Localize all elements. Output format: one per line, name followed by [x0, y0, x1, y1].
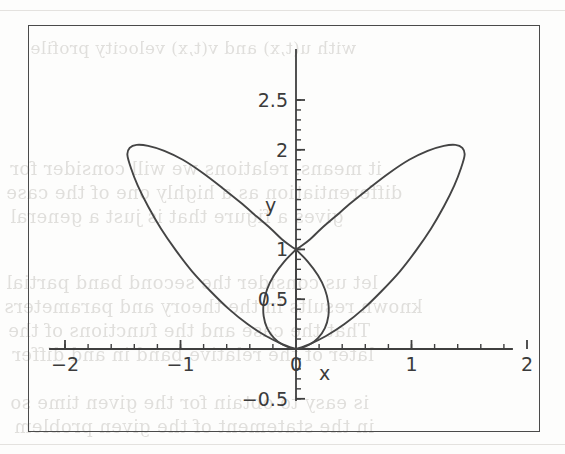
- y-tick-label: 2.5: [258, 91, 288, 110]
- y-tick-label: −0.5: [242, 389, 288, 408]
- x-axis-label: x: [319, 364, 330, 383]
- x-tick-label: 2: [521, 355, 533, 374]
- x-tick-label: −2: [51, 355, 79, 374]
- y-tick-label: 1: [276, 240, 288, 259]
- x-tick-label: 0: [290, 355, 302, 374]
- y-tick-label: 0.5: [258, 290, 288, 309]
- curve-left-lobe: [127, 145, 296, 349]
- x-tick-label: 1: [405, 355, 417, 374]
- y-axis-label: y: [265, 196, 276, 215]
- y-tick-label: 2: [276, 140, 288, 159]
- x-tick-label: −1: [166, 355, 194, 374]
- plot-canvas: [0, 0, 565, 454]
- curve-right-lobe: [296, 145, 465, 349]
